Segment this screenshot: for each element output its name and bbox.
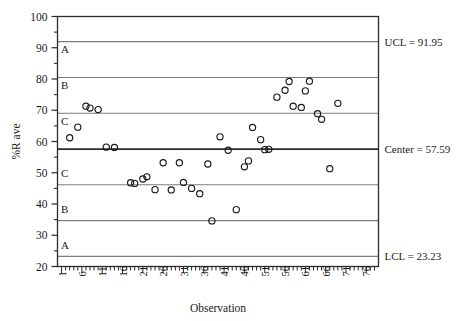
y-tick-label: 50 — [36, 167, 48, 179]
lcl-annotation: LCL = 23.23 — [385, 250, 442, 262]
y-tick-label: 90 — [36, 42, 48, 54]
x-axis: 161116212631364146515661667176 — [57, 266, 375, 277]
plot-border — [58, 17, 379, 267]
control-limit-annotations: UCL = 91.95Center = 57.59LCL = 23.23 — [385, 36, 451, 263]
y-tick-label: 70 — [36, 104, 48, 116]
data-point — [258, 137, 264, 143]
y-axis-title: %R ave — [10, 123, 22, 159]
data-point — [233, 207, 239, 213]
zone-label-a: A — [61, 43, 69, 55]
y-tick-label: 100 — [30, 11, 48, 23]
data-point — [205, 161, 211, 167]
data-point — [152, 187, 158, 193]
data-point — [274, 94, 280, 100]
zone-letter-labels: ABCCBA — [61, 43, 69, 250]
data-point — [176, 160, 182, 166]
data-point — [290, 103, 296, 109]
x-tick-label: 6 — [77, 271, 88, 276]
data-point — [302, 88, 308, 94]
y-tick-label: 80 — [36, 73, 48, 85]
data-point — [67, 135, 73, 141]
data-point — [286, 78, 292, 84]
zone-label-c: C — [61, 167, 68, 179]
center-annotation: Center = 57.59 — [385, 143, 451, 155]
data-point — [168, 187, 174, 193]
data-point — [298, 104, 304, 110]
data-point-series — [67, 78, 341, 224]
plot-frame — [58, 17, 379, 267]
zone-label-a: A — [61, 239, 69, 251]
data-point — [225, 147, 231, 153]
data-point — [335, 100, 341, 106]
data-point — [249, 124, 255, 130]
data-point — [282, 87, 288, 93]
data-point — [197, 191, 203, 197]
zone-label-b: B — [61, 79, 68, 91]
y-tick-label: 30 — [36, 229, 48, 241]
data-point — [245, 158, 251, 164]
data-point — [95, 107, 101, 113]
y-tick-label: 40 — [36, 198, 48, 210]
y-tick-label: 60 — [36, 136, 48, 148]
x-tick-label: 1 — [57, 271, 68, 276]
ucl-annotation: UCL = 91.95 — [385, 36, 444, 48]
data-point — [75, 124, 81, 130]
data-point — [306, 78, 312, 84]
data-point — [241, 164, 247, 170]
y-axis: 2030405060708090100 — [30, 11, 57, 273]
data-point — [132, 180, 138, 186]
zone-label-c: C — [61, 115, 68, 127]
data-point — [160, 160, 166, 166]
y-tick-label: 20 — [36, 261, 48, 273]
data-point — [188, 185, 194, 191]
data-point — [319, 116, 325, 122]
x-axis-title: Observation — [190, 302, 246, 314]
zone-label-b: B — [61, 203, 68, 215]
data-point — [327, 166, 333, 172]
data-point — [217, 134, 223, 140]
chart-canvas: 2030405060708090100 16111621263136414651… — [0, 0, 466, 321]
control-chart: 2030405060708090100 16111621263136414651… — [0, 0, 466, 321]
